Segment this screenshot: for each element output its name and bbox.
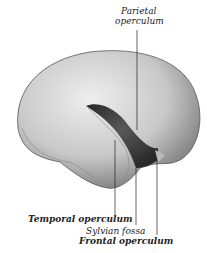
frontal-label: Frontal operculum — [79, 236, 173, 246]
parietal-label-1: Parietal — [121, 6, 156, 16]
temporal-label: Temporal operculum — [28, 214, 133, 224]
parietal-label-2: operculum — [115, 16, 164, 26]
sylvian-label: Sylvian fossa — [86, 226, 145, 236]
